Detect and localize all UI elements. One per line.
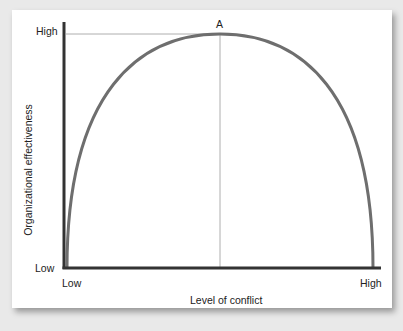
y-axis-title: Organizational effectiveness: [22, 104, 34, 236]
x-tick-low: Low: [62, 277, 81, 289]
x-tick-high: High: [360, 277, 382, 289]
y-tick-low: Low: [35, 262, 54, 274]
x-axis-title: Level of conflict: [190, 294, 262, 306]
chart-plot: [0, 0, 403, 331]
peak-label-a: A: [216, 18, 223, 30]
y-tick-high: High: [36, 25, 58, 37]
